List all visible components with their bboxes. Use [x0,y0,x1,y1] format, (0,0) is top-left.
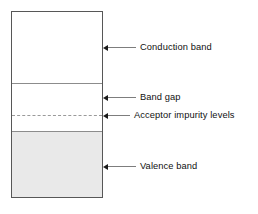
callout-acceptor-impurity-levels: Acceptor impurity levels [103,110,235,121]
callout-valence-band: Valence band [103,161,197,172]
callout-conduction-band: Conduction band [103,42,212,53]
leader-line [108,166,136,167]
valence-band-region [12,132,102,197]
energy-band-diagram-figure: Conduction band Band gap Acceptor impuri… [0,0,258,214]
callout-band-gap: Band gap [103,92,181,103]
band-gap-region [12,84,102,132]
band-structure-box [11,11,103,198]
acceptor-impurity-level-line [12,115,102,116]
leader-line [108,47,136,48]
callout-label-conduction-band: Conduction band [140,42,212,53]
leader-line [108,97,136,98]
conduction-band-region [12,12,102,84]
callout-label-valence-band: Valence band [140,161,197,172]
leader-line [108,115,130,116]
callout-label-acceptor-impurity-levels: Acceptor impurity levels [134,110,235,121]
callout-label-band-gap: Band gap [140,92,181,103]
